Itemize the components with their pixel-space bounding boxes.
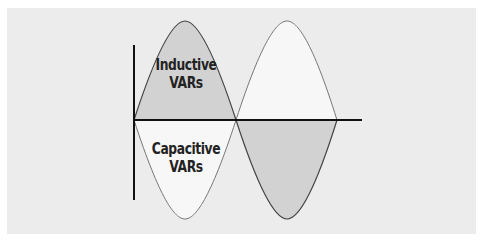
- inductive-label-line1: Inductive: [148, 56, 223, 74]
- capacitive-label-line2: VARs: [147, 158, 226, 176]
- inductive-label-line2: VARs: [148, 74, 223, 92]
- capacitive-label: Capacitive VARs: [147, 140, 226, 176]
- inductive-label: Inductive VARs: [148, 56, 223, 92]
- second-top-region: [236, 21, 337, 120]
- second-bottom-region: [236, 120, 337, 219]
- var-waveform-diagram: [0, 0, 482, 240]
- capacitive-label-line1: Capacitive: [147, 140, 226, 158]
